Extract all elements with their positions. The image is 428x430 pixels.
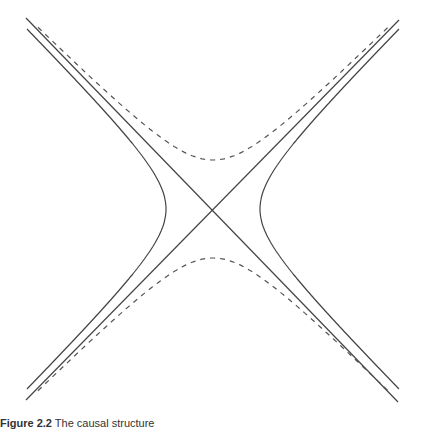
bottom-branch [38, 258, 388, 391]
asymptote-lines [26, 18, 399, 402]
caption-label: Figure 2.2 [0, 417, 52, 429]
asymptote-ascending [26, 20, 399, 400]
figure-caption: Figure 2.2 The causal structure [0, 416, 154, 430]
top-branch [38, 27, 388, 160]
caption-text: The causal structure [55, 417, 155, 429]
